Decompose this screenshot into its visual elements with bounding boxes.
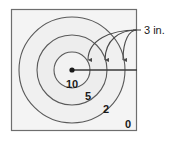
zone-label-2: 2	[103, 103, 109, 115]
center-dot	[69, 67, 74, 72]
zone-label-5: 5	[85, 90, 91, 102]
dimension-label: 3 in.	[144, 24, 165, 36]
zone-label-0: 0	[125, 118, 131, 130]
target-diagram: 10 5 2 0 3 in.	[0, 0, 178, 141]
zone-label-10: 10	[66, 78, 78, 90]
target-svg: 10 5 2 0 3 in.	[0, 0, 178, 141]
